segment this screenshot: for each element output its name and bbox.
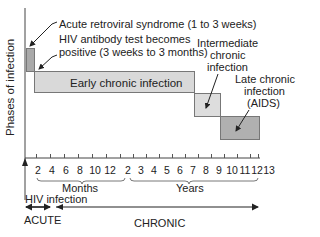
tick	[133, 154, 134, 158]
acute-label: ACUTE	[24, 214, 61, 226]
year-tick-label: 2	[121, 164, 135, 176]
month-tick-label: 4	[45, 164, 59, 176]
tick	[36, 154, 37, 158]
year-tick-label: 5	[160, 164, 174, 176]
tick	[211, 154, 212, 158]
years-label: Years	[176, 182, 204, 194]
year-tick-label: 6	[173, 164, 187, 176]
year-tick-label: 10	[225, 164, 239, 176]
year-tick-label: 13	[262, 164, 276, 176]
month-tick-label: 2	[31, 164, 45, 176]
tick	[185, 154, 186, 158]
tick	[172, 154, 173, 158]
tick	[146, 154, 147, 158]
year-tick-label: 8	[199, 164, 213, 176]
tick	[50, 154, 51, 158]
chronic-label: CHRONIC	[134, 217, 185, 229]
tick	[120, 154, 121, 158]
month-tick-label: 6	[59, 164, 73, 176]
tick	[224, 154, 225, 158]
tick	[159, 154, 160, 158]
month-tick-label: 10	[88, 164, 102, 176]
month-tick-label: 8	[73, 164, 87, 176]
tick	[106, 154, 107, 158]
year-tick-label: 7	[186, 164, 200, 176]
year-tick-label: 4	[147, 164, 161, 176]
tick	[198, 154, 199, 158]
tick	[92, 154, 93, 158]
tick	[237, 154, 238, 158]
tick	[64, 154, 65, 158]
tick	[78, 154, 79, 158]
year-tick-label: 9	[212, 164, 226, 176]
tick	[250, 154, 251, 158]
tick	[258, 154, 259, 158]
year-tick-label: 3	[134, 164, 148, 176]
month-tick-label: 12	[103, 164, 117, 176]
hiv-infection-label: HIV infection	[25, 193, 87, 205]
